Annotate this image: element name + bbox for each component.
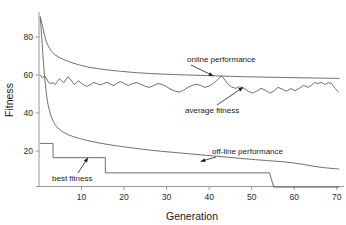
- x-tick-group: 10203040506070: [77, 187, 342, 203]
- figure-container: 20406080 10203040506070 online performan…: [0, 0, 346, 225]
- y-tick-group: 20406080: [24, 32, 39, 156]
- y-tick-label: 60: [24, 70, 34, 80]
- x-tick-label: 70: [332, 192, 342, 202]
- y-tick-label: 80: [24, 32, 34, 42]
- y-axis-title: Fitness: [3, 83, 15, 117]
- annotation-label-average-fitness: average fitness: [185, 106, 239, 115]
- annotation-arrow-off-line-performance: [201, 158, 206, 162]
- annotation-arrow-average-fitness: [238, 87, 243, 91]
- annotation-leader-average-fitness: [217, 87, 243, 105]
- x-tick-label: 60: [289, 192, 299, 202]
- y-tick-label: 20: [24, 146, 34, 156]
- x-tick-label: 10: [77, 192, 87, 202]
- x-tick-label: 30: [162, 192, 172, 202]
- annotation-label-off-line-performance: off-line performance: [212, 147, 284, 156]
- series-online-performance: [40, 17, 339, 78]
- x-tick-label: 20: [119, 192, 129, 202]
- annotation-label-online-performance: online performance: [187, 55, 256, 64]
- x-axis-title: Generation: [166, 210, 218, 222]
- annotation-arrow-best-fitness: [84, 158, 88, 163]
- y-tick-label: 40: [24, 108, 34, 118]
- fitness-line-chart: 20406080 10203040506070 online performan…: [0, 0, 346, 225]
- annotation-label-best-fitness: best fitness: [52, 174, 92, 183]
- x-tick-label: 40: [204, 192, 214, 202]
- x-tick-label: 50: [247, 192, 257, 202]
- series-off-line-performance: [40, 17, 339, 169]
- axes-group: [36, 12, 344, 187]
